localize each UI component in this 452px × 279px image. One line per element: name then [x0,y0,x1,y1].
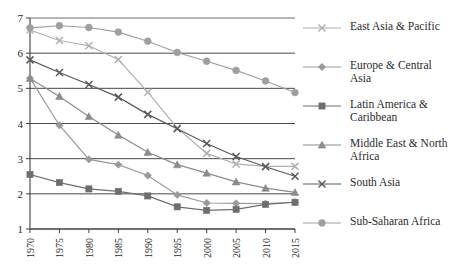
legend-key-east-asia-pacific [302,21,342,35]
legend-label: Middle East & North Africa [342,137,447,163]
x-tick-label: 1995 [172,238,183,258]
figure-caption [28,268,288,279]
legend-key-middle-east-north-africa [302,138,342,152]
x-tick-label: 1980 [84,238,95,258]
x-tick-label: 2015 [290,238,300,258]
chart-page: 1234567197019751980198519901995200020052… [0,0,452,279]
plot-svg: 1234567197019751980198519901995200020052… [0,0,300,279]
legend-item-east-asia-pacific: East Asia & Pacific [302,20,452,46]
y-tick-label: 2 [18,188,24,200]
x-tick-label: 2005 [231,238,242,258]
legend-item-south-asia: South Asia [302,176,452,202]
series-line [30,174,295,210]
y-tick-label: 3 [18,153,24,165]
series-line [30,30,295,166]
legend-key-latin-america-caribbean [302,99,342,113]
chart-legend: East Asia & Pacific Europe & Central Asi… [302,20,452,254]
legend-item-middle-east-north-africa: Middle East & North Africa [302,137,452,163]
legend-item-latin-america-caribbean: Latin America & Caribbean [302,98,452,124]
series-3 [27,171,298,213]
x-tick-label: 2000 [202,238,213,258]
legend-marker-x-icon [302,177,342,191]
legend-label: South Asia [342,176,400,189]
legend-marker-diamond-icon [302,60,342,74]
y-tick-label: 4 [18,118,24,130]
series-line [30,78,295,192]
legend-label: Sub-Saharan Africa [342,215,440,228]
x-tick-label: 1975 [54,238,65,258]
y-tick-label: 7 [18,12,24,24]
legend-label: East Asia & Pacific [342,20,440,33]
y-tick-label: 5 [18,82,24,94]
series-4 [26,75,299,196]
series-2 [26,74,298,207]
legend-item-europe-central-asia: Europe & Central Asia [302,59,452,85]
x-tick-label: 1990 [143,238,154,258]
x-tick-label: 1985 [113,238,124,258]
series-6 [27,22,299,96]
x-tick-label: 2010 [261,238,272,258]
legend-marker-circle-icon [302,216,342,230]
legend-marker-square-icon [302,99,342,113]
legend-item-sub-saharan-africa: Sub-Saharan Africa [302,215,452,241]
series-line [30,26,295,93]
y-tick-label: 1 [18,223,24,235]
y-tick-label: 6 [18,47,24,59]
legend-marker-triangle-icon [302,138,342,152]
line-chart-figure: 1234567197019751980198519901995200020052… [0,0,300,279]
x-tick-label: 1970 [25,238,36,258]
legend-key-europe-central-asia [302,60,342,74]
legend-label: Latin America & Caribbean [342,98,428,124]
legend-key-sub-saharan-africa [302,216,342,230]
legend-key-south-asia [302,177,342,191]
series-5 [27,56,299,179]
legend-label: Europe & Central Asia [342,59,452,85]
series-1 [27,26,299,169]
legend-marker-x-icon [302,21,342,35]
